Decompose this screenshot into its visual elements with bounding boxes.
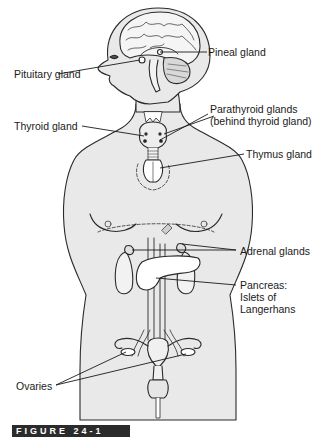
- label-pituitary-gland: Pituitary gland: [14, 68, 81, 80]
- label-thyroid-gland: Thyroid gland: [14, 120, 78, 132]
- label-pineal-gland: Pineal gland: [208, 46, 266, 58]
- label-parathyroid-glands: Parathyroid glands: [210, 103, 298, 115]
- adrenal-right: [177, 244, 186, 253]
- label-adrenal-glands: Adrenal glands: [240, 245, 310, 257]
- figure-caption: FIGURE 24-1: [12, 425, 130, 437]
- label-langerhans: Langerhans: [240, 303, 295, 315]
- label-ovaries: Ovaries: [16, 380, 52, 392]
- label-thymus-gland: Thymus gland: [246, 148, 312, 160]
- label-islets-of: Islets of: [240, 291, 276, 303]
- ovary-left: [121, 349, 135, 356]
- label-pancreas: Pancreas:: [240, 279, 287, 291]
- label-parathyroid-note: (behind thyroid gland): [210, 115, 312, 127]
- thyroid: [139, 122, 166, 148]
